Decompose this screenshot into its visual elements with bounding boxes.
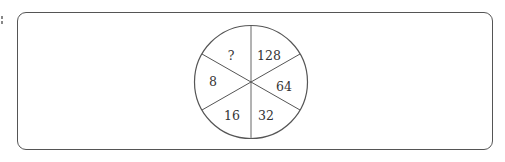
- segment-right: 64: [276, 79, 292, 94]
- segment-bottom-right: 32: [258, 108, 274, 123]
- number-wheel: 128 64 32 16 8 ?: [0, 0, 505, 162]
- segment-top-right: 128: [257, 48, 281, 63]
- segment-top-left: ?: [228, 48, 235, 63]
- segment-left: 8: [209, 74, 217, 89]
- segment-bottom-left: 16: [224, 108, 240, 123]
